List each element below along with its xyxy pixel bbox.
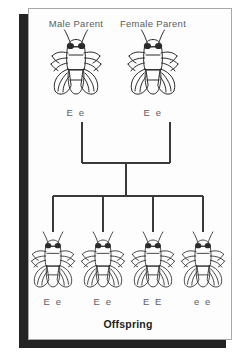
figure-canvas: Male Parent Female Parent E e E e E e E …: [0, 0, 241, 357]
fly-male-parent: [51, 30, 101, 94]
female-parent-title: Female Parent: [120, 18, 186, 29]
fly-offspring-1: [32, 232, 75, 287]
fly-offspring-3: [132, 232, 175, 287]
offspring-genotype-3: E E: [143, 296, 163, 307]
offspring-genotype-2: E e: [93, 296, 112, 307]
offspring-genotype-4: e e: [194, 296, 212, 307]
male-parent-title: Male Parent: [49, 18, 104, 29]
fly-offspring-2: [82, 232, 125, 287]
offspring-genotype-1: E e: [43, 296, 62, 307]
offspring-caption: Offspring: [103, 318, 152, 330]
fly-female-parent: [128, 30, 178, 94]
female-parent-genotype: E e: [143, 107, 162, 118]
male-parent-genotype: E e: [66, 107, 85, 118]
fly-offspring-4: [182, 232, 225, 287]
pedigree-connector-lines: [53, 122, 203, 232]
